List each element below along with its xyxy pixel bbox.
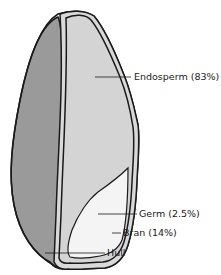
grain-kernel-diagram: Endosperm (83%) Germ (2.5%) Bran (14%) H… <box>0 0 221 275</box>
endosperm-label: Endosperm (83%) <box>134 71 219 82</box>
hull-label: Hull <box>107 247 125 258</box>
bran-label: Bran (14%) <box>123 227 177 238</box>
germ-label: Germ (2.5%) <box>139 208 200 219</box>
